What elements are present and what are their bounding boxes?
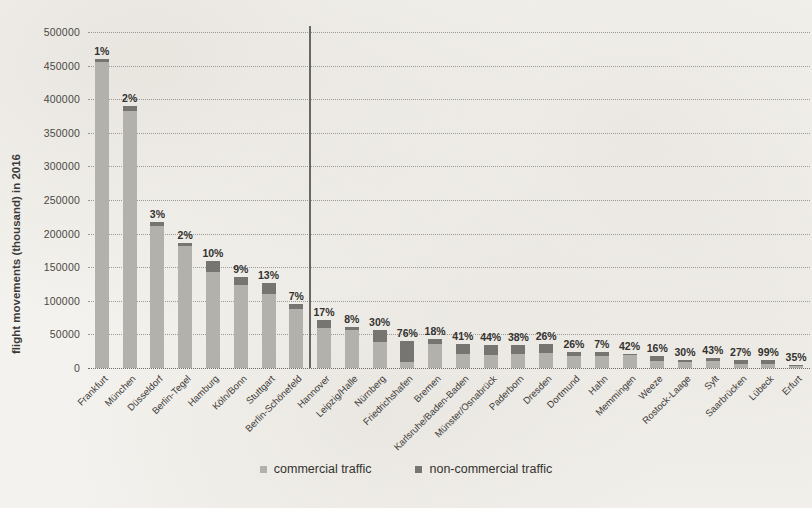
x-axis-tick-label: Friedrichshafen (361, 373, 415, 427)
bar-segment-non-commercial[interactable] (262, 283, 276, 294)
legend-swatch-non-commercial-icon (415, 466, 422, 473)
bar-value-label: 13% (258, 269, 279, 281)
bar-segment-non-commercial[interactable] (400, 341, 414, 361)
bar-column[interactable]: 41%Karlsruhe/Baden-Baden (456, 344, 470, 368)
bar-segment-commercial[interactable] (95, 62, 109, 368)
bar-column[interactable]: 26%Dortmund (567, 352, 581, 368)
bar-segment-commercial[interactable] (234, 285, 248, 368)
bar-column[interactable]: 10%Hamburg (206, 261, 220, 368)
bar-segment-commercial[interactable] (789, 366, 803, 368)
bar-column[interactable]: 1%Frankfurt (95, 59, 109, 368)
bar-column[interactable]: 35%Erfurt (789, 365, 803, 368)
bar-value-label: 30% (369, 316, 390, 328)
bar-value-label: 1% (94, 45, 109, 57)
bar-segment-non-commercial[interactable] (456, 344, 470, 354)
bar-column[interactable]: 30%Nürnberg (373, 330, 387, 368)
bar-segment-commercial[interactable] (289, 309, 303, 368)
bar-value-label: 16% (647, 342, 668, 354)
bar-segment-commercial[interactable] (484, 355, 498, 368)
bar-segment-commercial[interactable] (150, 226, 164, 368)
bar-segment-commercial[interactable] (428, 344, 442, 368)
y-axis-title: flight movements (thousand) in 2016 (10, 154, 22, 354)
bar-segment-commercial[interactable] (456, 354, 470, 368)
bar-column[interactable]: 38%Paderborn (511, 345, 525, 368)
bar-column[interactable]: 18%Bremen (428, 339, 442, 368)
axis-baseline (88, 368, 810, 369)
bar-segment-commercial[interactable] (595, 356, 609, 368)
bar-segment-commercial[interactable] (678, 362, 692, 368)
bar-value-label: 9% (233, 263, 248, 275)
bar-value-label: 38% (508, 331, 529, 343)
y-axis-tick-label: 50000 (50, 328, 80, 340)
bar-column[interactable]: 99%Lübeck (761, 360, 775, 368)
y-axis-tick-label: 100000 (44, 295, 80, 307)
bar-column[interactable]: 42%Memmingen (623, 354, 637, 368)
bar-segment-commercial[interactable] (317, 328, 331, 368)
x-axis-tick-label: Erfurt (780, 373, 804, 397)
bar-column[interactable]: 8%Leipzig/Halle (345, 327, 359, 368)
legend-item-commercial[interactable]: commercial traffic (260, 462, 372, 476)
y-axis-tick-label: 150000 (44, 261, 80, 273)
bar-column[interactable]: 9%Köln/Bonn (234, 277, 248, 368)
bar-value-label: 76% (397, 327, 418, 339)
bar-column[interactable]: 7%Hahn (595, 352, 609, 368)
bar-segment-commercial[interactable] (178, 246, 192, 368)
bar-value-label: 7% (289, 290, 304, 302)
bar-value-label: 18% (425, 325, 446, 337)
bar-segment-commercial[interactable] (206, 272, 220, 368)
bar-segment-non-commercial[interactable] (511, 345, 525, 354)
bar-value-label: 44% (480, 331, 501, 343)
bar-value-label: 8% (344, 313, 359, 325)
y-axis-tick-label: 500000 (44, 26, 80, 38)
bar-segment-commercial[interactable] (262, 294, 276, 368)
bar-segment-commercial[interactable] (400, 362, 414, 368)
bar-column[interactable]: 43%Sylt (706, 358, 720, 368)
bar-value-label: 17% (314, 306, 335, 318)
bar-segment-commercial[interactable] (123, 111, 137, 368)
bar-column[interactable]: 2%München (123, 106, 137, 368)
bar-value-label: 42% (619, 340, 640, 352)
x-axis-tick-label: Sylt (702, 373, 721, 392)
bar-segment-commercial[interactable] (623, 355, 637, 368)
bar-column[interactable]: 16%Weeze (650, 356, 664, 368)
bar-column[interactable]: 30%Rostock-Laage (678, 360, 692, 368)
bar-segment-non-commercial[interactable] (317, 320, 331, 328)
bar-value-label: 41% (452, 330, 473, 342)
bar-segment-commercial[interactable] (734, 364, 748, 368)
bar-value-label: 30% (675, 346, 696, 358)
bar-segment-non-commercial[interactable] (373, 330, 387, 341)
bar-segment-commercial[interactable] (345, 330, 359, 368)
y-axis-tick-label: 350000 (44, 127, 80, 139)
bar-segment-non-commercial[interactable] (484, 345, 498, 355)
bar-segment-commercial[interactable] (539, 353, 553, 368)
legend-item-non-commercial[interactable]: non-commercial traffic (415, 462, 552, 476)
category-divider-line (309, 26, 311, 368)
bar-column[interactable]: 76%Friedrichshafen (400, 341, 414, 368)
bar-column[interactable]: 26%Dresden (539, 344, 553, 368)
bar-chart: flight movements (thousand) in 2016 0500… (0, 0, 812, 508)
bar-value-label: 2% (178, 229, 193, 241)
bar-segment-commercial[interactable] (650, 361, 664, 368)
legend-label-commercial: commercial traffic (274, 462, 372, 476)
bar-segment-commercial[interactable] (567, 356, 581, 368)
bar-value-label: 3% (150, 208, 165, 220)
bar-column[interactable]: 13%Stuttgart (262, 283, 276, 368)
bar-column[interactable]: 27%Saarbrücken (734, 360, 748, 368)
bar-segment-non-commercial[interactable] (206, 261, 220, 272)
y-axis-tick-label: 400000 (44, 93, 80, 105)
y-axis-tick-label: 450000 (44, 60, 80, 72)
bar-segment-commercial[interactable] (761, 364, 775, 368)
bar-segment-commercial[interactable] (706, 361, 720, 368)
bar-value-label: 35% (786, 351, 807, 363)
bar-segment-non-commercial[interactable] (539, 344, 553, 353)
bar-segment-commercial[interactable] (373, 342, 387, 368)
bar-value-label: 2% (122, 92, 137, 104)
bar-column[interactable]: 44%Münster/Osnabrück (484, 345, 498, 368)
bar-series-group: 1%Frankfurt2%München3%Düsseldorf2%Berlin… (88, 32, 810, 368)
bar-segment-commercial[interactable] (511, 354, 525, 368)
bar-column[interactable]: 7%Berlin-Schönefeld (289, 304, 303, 368)
bar-column[interactable]: 3%Düsseldorf (150, 222, 164, 368)
bar-segment-non-commercial[interactable] (234, 277, 248, 285)
bar-column[interactable]: 2%Berlin-Tegel (178, 243, 192, 368)
bar-column[interactable]: 17%Hannover (317, 320, 331, 368)
